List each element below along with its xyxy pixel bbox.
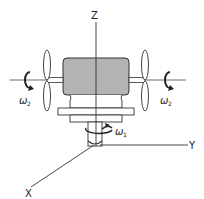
right-shaft [129,78,145,83]
omega2-left-sub: 2 [27,100,31,107]
left-rotation-arrow-icon [25,72,34,91]
omega1-sub: 1 [123,131,127,138]
left-shaft [47,78,63,83]
y-axis-label: Y [188,140,196,151]
x-axis [31,145,94,187]
x-axis-label: X [25,188,32,199]
right-rotation-arrow-icon [165,72,174,91]
gimbal-rotor-diagram: Z Y X ω 2 ω 2 ω 1 [0,0,204,199]
z-axis-label: Z [91,10,98,21]
omega2-right-sub: 2 [168,100,172,107]
